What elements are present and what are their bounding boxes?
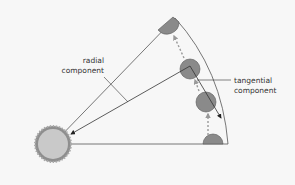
tangential-label-line1: tangential [234,76,272,85]
ball-upper [180,59,200,79]
radial-label-line2: component [62,66,104,75]
ball-top-half [158,17,179,34]
radial-arrow [71,66,190,134]
wedge-sector [53,18,228,144]
radial-label-line1: radial [83,56,104,65]
mass-balls [158,17,223,144]
tangential-label-line2: component [234,86,276,95]
rotation-diagram: radial component tangential component [0,0,295,185]
ball-lower [196,92,216,112]
hub [35,126,71,162]
radial-leader-line [104,77,128,102]
motion-path-arrows [174,36,208,135]
ball-bottom-half [203,134,223,144]
